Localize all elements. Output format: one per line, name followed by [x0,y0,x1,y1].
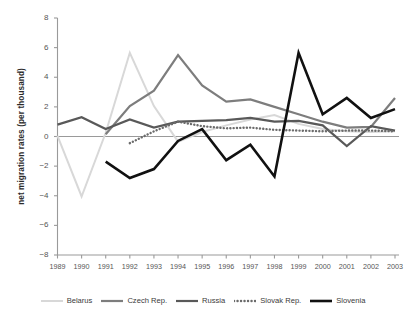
y-tick-label: −6 [27,220,49,229]
legend-label: Belarus [67,296,93,305]
y-tick-label: 2 [27,102,49,111]
legend-item-slovak-rep[interactable]: Slovak Rep. [234,296,301,305]
series-line-czech-rep [106,55,395,134]
legend-item-slovenia[interactable]: Slovenia [310,296,365,305]
legend-swatch [310,297,332,305]
y-tick-label: 4 [27,72,49,81]
series-line-belarus [58,53,396,197]
legend-swatch [176,297,198,305]
legend-item-russia[interactable]: Russia [176,296,225,305]
legend-item-czech-rep[interactable]: Czech Rep. [101,296,167,305]
legend-item-belarus[interactable]: Belarus [41,296,93,305]
legend-label: Czech Rep. [127,296,167,305]
legend-label: Slovenia [336,296,365,305]
legend-label: Slovak Rep. [260,296,301,305]
y-tick-label: 6 [27,43,49,52]
x-tick-label: 2003 [380,262,406,271]
y-tick-label: 8 [27,13,49,22]
legend-swatch [234,297,256,305]
y-tick-label: −2 [27,161,49,170]
y-tick-label: −4 [27,191,49,200]
y-tick-label: 0 [27,132,49,141]
y-tick-label: −8 [27,250,49,259]
legend-label: Russia [202,296,225,305]
legend-swatch [101,297,123,305]
legend-swatch [41,297,63,305]
chart-root: net migration rates (per thousand) 86420… [0,0,406,318]
series-line-slovenia [106,53,395,178]
chart-legend: BelarusCzech Rep.RussiaSlovak Rep.Sloven… [0,296,406,305]
